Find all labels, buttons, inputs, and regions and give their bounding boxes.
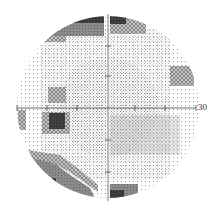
defect-blind-spot [49,113,65,129]
defect-superior-left [50,28,104,36]
defect-temporal [170,66,194,86]
defect-superior-right [110,15,128,24]
visual-field-plot [0,0,218,211]
axis-label-30: 30 [198,103,207,112]
